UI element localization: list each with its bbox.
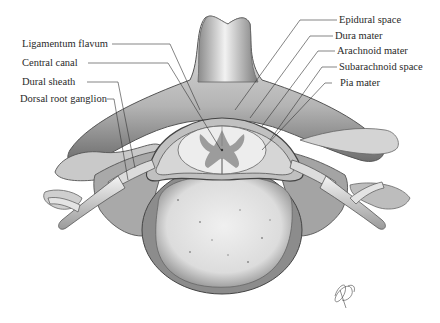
label-pia-mater: Pia mater	[340, 77, 380, 89]
label-epidural-space: Epidural space	[339, 14, 401, 26]
label-central-canal: Central canal	[22, 57, 78, 69]
label-ligamentum-flavum: Ligamentum flavum	[22, 38, 108, 50]
label-dural-sheath: Dural sheath	[22, 76, 75, 88]
label-dorsal-root-ganglion: Dorsal root ganglion	[20, 93, 107, 105]
label-subarachnoid-space: Subarachnoid space	[339, 61, 423, 73]
label-dura-mater: Dura mater	[335, 30, 383, 42]
artist-signature	[335, 285, 355, 308]
central-canal-dot	[221, 149, 223, 151]
vertebral-body	[156, 176, 293, 287]
spinous-process	[198, 16, 258, 82]
label-arachnoid-mater: Arachnoid mater	[337, 45, 408, 57]
spinal-cord	[178, 126, 266, 174]
